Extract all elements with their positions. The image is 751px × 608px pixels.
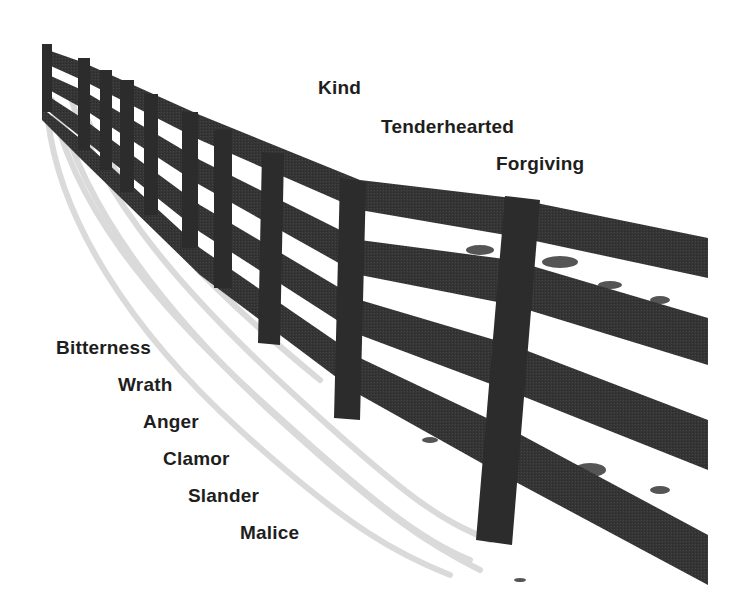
- vice-word-slander: Slander: [188, 486, 259, 505]
- vice-word-anger: Anger: [143, 412, 199, 431]
- vice-word-malice: Malice: [240, 523, 299, 542]
- vice-word-bitterness: Bitterness: [56, 338, 151, 357]
- vice-word-wrath: Wrath: [118, 375, 172, 394]
- fence-illustration: [0, 0, 751, 608]
- virtue-word-tenderhearted: Tenderhearted: [381, 117, 514, 136]
- virtue-word-forgiving: Forgiving: [496, 154, 584, 173]
- vice-word-clamor: Clamor: [163, 449, 230, 468]
- fence-photo: [0, 0, 751, 608]
- virtue-word-kind: Kind: [318, 78, 361, 97]
